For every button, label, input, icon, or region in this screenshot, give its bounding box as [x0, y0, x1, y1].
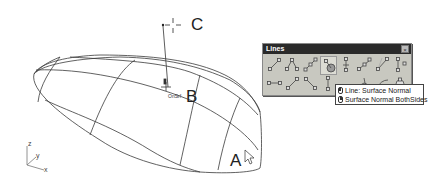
toolbar-title: Lines	[266, 45, 284, 52]
line-icon	[267, 57, 282, 72]
tooltip-left-text: Line: Surface Normal	[345, 86, 411, 95]
vertical-cplane-icon	[321, 76, 336, 91]
left-mouse-button-icon	[338, 87, 343, 94]
vertical-line-icon	[339, 57, 354, 72]
tooltip-right-click-row: Surface Normal BothSides	[338, 95, 421, 104]
axis-z-label: z	[28, 140, 32, 147]
point-b-marker	[161, 79, 171, 91]
right-mouse-button-icon	[338, 96, 343, 103]
line-segments-icon	[303, 57, 318, 72]
close-icon[interactable]: ×	[401, 45, 409, 53]
axis-x-label: x	[44, 166, 48, 173]
tooltip-left-click-row: Line: Surface Normal	[338, 86, 421, 95]
polyline-button[interactable]	[284, 56, 301, 75]
line-perpendicular-button[interactable]	[392, 56, 409, 75]
line-surface-normal-button[interactable]	[320, 56, 337, 75]
bisector-line-icon	[285, 76, 300, 91]
angled-line-icon	[375, 57, 390, 72]
line-two-points-button[interactable]	[266, 56, 283, 75]
axis-y-label: y	[36, 152, 40, 159]
line-horizontal-button[interactable]	[266, 75, 283, 94]
line-bisector-button[interactable]	[284, 75, 301, 94]
polyline-icon	[285, 57, 300, 72]
toolbar-titlebar[interactable]: Lines ×	[263, 44, 411, 54]
snap-osnap-label: OnSrf	[168, 94, 181, 99]
tooltip-right-text: Surface Normal BothSides	[345, 95, 427, 104]
point-c-label: C	[191, 16, 203, 33]
midpoint-line-icon	[357, 57, 372, 72]
line-angled-button[interactable]	[374, 56, 391, 75]
point-a-label: A	[230, 152, 241, 169]
surface-normal-icon	[322, 58, 337, 73]
line-segments-button[interactable]	[302, 56, 319, 75]
point-c-marker	[165, 18, 181, 33]
line-vertical-button[interactable]	[338, 56, 355, 75]
line-from-midpoint-button[interactable]	[356, 56, 373, 75]
point-b-label: B	[186, 88, 197, 105]
perpendicular-line-icon	[393, 57, 408, 72]
horizontal-line-icon	[267, 76, 282, 91]
tangent-line-icon	[303, 76, 318, 91]
mouse-cursor	[245, 150, 254, 164]
tooltip: Line: Surface Normal Surface Normal Both…	[335, 84, 424, 105]
line-tangent-button[interactable]	[302, 75, 319, 94]
